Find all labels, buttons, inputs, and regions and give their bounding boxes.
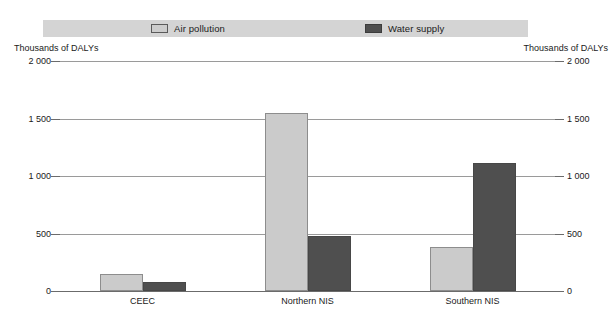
y-axis-tick-mark <box>555 61 564 62</box>
x-axis-label-northern-nis: Northern NIS <box>281 296 334 306</box>
y-axis-right-caption: Thousands of DALYs <box>524 43 608 53</box>
y-axis-tick-mark <box>555 291 564 292</box>
y-axis-tick-mark <box>51 119 60 120</box>
plot-area <box>60 61 555 291</box>
bar-ceec-water-supply <box>143 282 186 291</box>
bar-northern-nis-water-supply <box>308 236 351 291</box>
bar-southern-nis-water-supply <box>473 163 516 291</box>
gridline <box>60 291 555 292</box>
y-axis-tick-label-left: 2 000 <box>5 57 51 66</box>
y-axis-tick-label-left: 0 <box>5 287 51 296</box>
y-axis-tick-label-left: 1 500 <box>5 115 51 124</box>
y-axis-tick-mark <box>555 234 564 235</box>
y-axis-tick-label-left: 1 000 <box>5 172 51 181</box>
y-axis-tick-label-right: 1 500 <box>567 115 613 124</box>
bar-chart: Air pollution Water supply Thousands of … <box>0 0 613 326</box>
legend-label-water-supply: Water supply <box>388 23 444 34</box>
bar-southern-nis-air-pollution <box>430 247 473 291</box>
y-axis-tick-mark <box>51 234 60 235</box>
x-axis-label-southern-nis: Southern NIS <box>445 296 499 306</box>
gridline <box>60 61 555 62</box>
chart-legend: Air pollution Water supply <box>43 20 528 37</box>
bar-ceec-air-pollution <box>100 274 143 291</box>
y-axis-left-caption: Thousands of DALYs <box>14 43 98 53</box>
y-axis-tick-mark <box>51 176 60 177</box>
y-axis-tick-mark <box>51 291 60 292</box>
legend-label-air-pollution: Air pollution <box>174 23 225 34</box>
legend-item-water-supply: Water supply <box>365 20 444 37</box>
x-axis-label-ceec: CEEC <box>130 296 155 306</box>
y-axis-tick-mark <box>555 119 564 120</box>
y-axis-tick-label-right: 0 <box>567 287 613 296</box>
y-axis-tick-mark <box>555 176 564 177</box>
bar-northern-nis-air-pollution <box>265 113 308 291</box>
legend-swatch-icon-air-pollution <box>151 24 168 33</box>
y-axis-tick-label-right: 1 000 <box>567 172 613 181</box>
gridline <box>60 119 555 120</box>
y-axis-tick-label-left: 500 <box>5 230 51 239</box>
legend-item-air-pollution: Air pollution <box>151 20 225 37</box>
y-axis-tick-mark <box>51 61 60 62</box>
y-axis-tick-label-right: 500 <box>567 230 613 239</box>
legend-swatch-icon-water-supply <box>365 24 382 33</box>
y-axis-tick-label-right: 2 000 <box>567 57 613 66</box>
